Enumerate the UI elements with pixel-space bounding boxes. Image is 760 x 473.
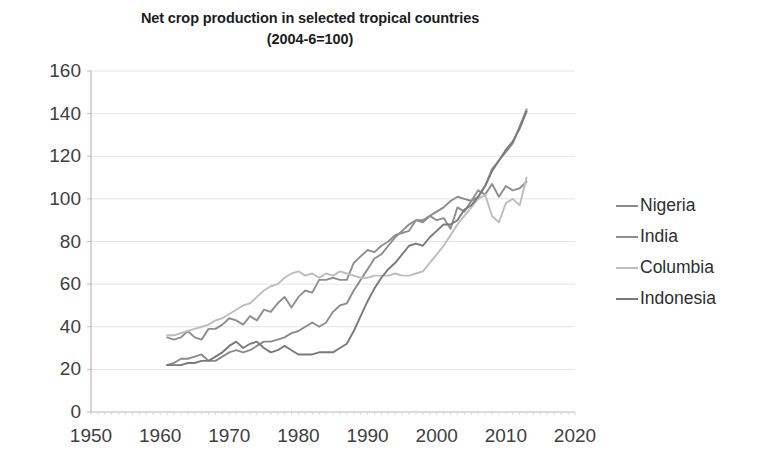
legend-item-label: Indonesia <box>640 288 716 309</box>
x-tick-label-2020: 2020 <box>540 426 610 445</box>
legend-item-nigeria[interactable]: Nigeria <box>616 190 756 221</box>
legend-line-swatch-icon <box>616 298 638 300</box>
gridlines <box>91 71 575 369</box>
chart-container: Net crop production in selected tropical… <box>0 0 760 473</box>
x-tick-label-1950: 1950 <box>56 426 126 445</box>
legend-item-columbia[interactable]: Columbia <box>616 252 756 283</box>
y-tick-label-80: 80 <box>33 232 81 251</box>
axis-lines <box>87 71 575 415</box>
y-tick-label-40: 40 <box>33 317 81 336</box>
legend-item-label: Nigeria <box>640 195 695 216</box>
x-tick-label-1990: 1990 <box>333 426 403 445</box>
legend-item-label: Columbia <box>640 257 714 278</box>
legend-item-label: India <box>640 226 678 247</box>
y-tick-label-100: 100 <box>33 189 81 208</box>
legend-line-swatch-icon <box>616 267 638 269</box>
legend-line-swatch-icon <box>616 205 638 207</box>
legend-item-indonesia[interactable]: Indonesia <box>616 283 756 314</box>
y-tick-label-20: 20 <box>33 359 81 378</box>
y-tick-label-0: 0 <box>33 402 81 421</box>
x-tick-label-2010: 2010 <box>471 426 541 445</box>
x-tick-label-1970: 1970 <box>194 426 264 445</box>
legend-item-india[interactable]: India <box>616 221 756 252</box>
y-tick-label-60: 60 <box>33 274 81 293</box>
x-tick-label-1980: 1980 <box>263 426 333 445</box>
y-tick-label-120: 120 <box>33 146 81 165</box>
y-tick-label-160: 160 <box>33 61 81 80</box>
legend-line-swatch-icon <box>616 236 638 238</box>
x-tick-label-2000: 2000 <box>402 426 472 445</box>
chart-legend: NigeriaIndiaColumbiaIndonesia <box>616 190 756 314</box>
y-tick-label-140: 140 <box>33 104 81 123</box>
x-tick-label-1960: 1960 <box>125 426 195 445</box>
